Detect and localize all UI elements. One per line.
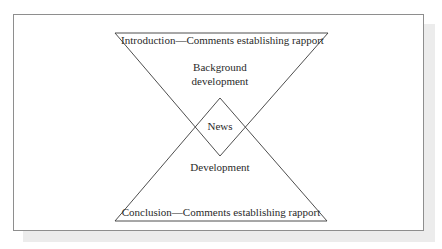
introduction-label: Introduction—Comments establishing rappo…: [121, 35, 321, 46]
background-label-line2: development: [170, 76, 270, 87]
background-label-line1: Background: [170, 62, 270, 73]
bottom-triangle: [115, 98, 327, 221]
news-label: News: [195, 121, 245, 132]
top-inverted-triangle: [115, 33, 328, 156]
development-label: Development: [170, 162, 270, 173]
conclusion-label: Conclusion—Comments establishing rapport: [121, 207, 321, 218]
